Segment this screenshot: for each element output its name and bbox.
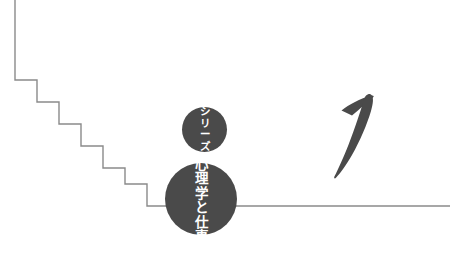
- title-circle: [165, 163, 237, 235]
- volume-number-one: [334, 94, 374, 178]
- cover-canvas: シ リ ー ズ 心 理 学 と 仕 事: [0, 0, 458, 271]
- cover-artwork: [0, 0, 458, 271]
- series-circle: [182, 107, 227, 152]
- descending-staircase: [15, 0, 450, 206]
